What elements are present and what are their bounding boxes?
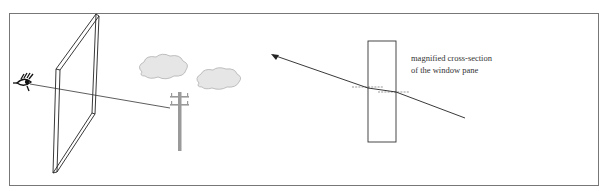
caption-line-1: magnified cross-section	[411, 52, 492, 64]
cross-section-caption: magnified cross-section of the window pa…	[411, 52, 492, 76]
cloud-1	[139, 54, 187, 79]
caption-line-2: of the window pane	[411, 64, 492, 76]
refraction-diagram	[0, 0, 607, 189]
cloud-2	[197, 68, 241, 90]
